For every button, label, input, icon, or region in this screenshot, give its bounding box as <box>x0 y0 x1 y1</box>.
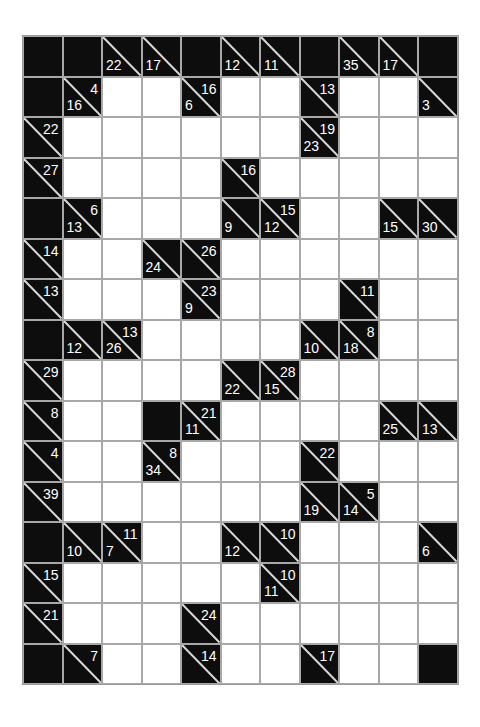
entry-cell[interactable] <box>181 360 221 401</box>
entry-cell[interactable] <box>142 644 182 685</box>
entry-cell[interactable] <box>260 320 300 361</box>
entry-cell[interactable] <box>260 239 300 280</box>
entry-cell[interactable] <box>102 279 142 320</box>
entry-cell[interactable] <box>379 644 419 685</box>
entry-cell[interactable] <box>102 563 142 604</box>
entry-cell[interactable] <box>260 158 300 199</box>
entry-cell[interactable] <box>379 441 419 482</box>
entry-cell[interactable] <box>260 441 300 482</box>
entry-cell[interactable] <box>418 360 458 401</box>
entry-cell[interactable] <box>300 563 340 604</box>
entry-cell[interactable] <box>379 360 419 401</box>
entry-cell[interactable] <box>142 117 182 158</box>
entry-cell[interactable] <box>181 482 221 523</box>
entry-cell[interactable] <box>260 401 300 442</box>
entry-cell[interactable] <box>221 320 261 361</box>
entry-cell[interactable] <box>260 603 300 644</box>
entry-cell[interactable] <box>300 360 340 401</box>
entry-cell[interactable] <box>339 77 379 118</box>
entry-cell[interactable] <box>418 117 458 158</box>
entry-cell[interactable] <box>63 158 103 199</box>
entry-cell[interactable] <box>142 77 182 118</box>
entry-cell[interactable] <box>221 482 261 523</box>
entry-cell[interactable] <box>63 401 103 442</box>
entry-cell[interactable] <box>63 239 103 280</box>
entry-cell[interactable] <box>339 158 379 199</box>
entry-cell[interactable] <box>339 401 379 442</box>
entry-cell[interactable] <box>63 279 103 320</box>
entry-cell[interactable] <box>379 320 419 361</box>
entry-cell[interactable] <box>63 360 103 401</box>
entry-cell[interactable] <box>63 603 103 644</box>
entry-cell[interactable] <box>300 279 340 320</box>
entry-cell[interactable] <box>181 198 221 239</box>
entry-cell[interactable] <box>221 401 261 442</box>
entry-cell[interactable] <box>379 603 419 644</box>
entry-cell[interactable] <box>379 563 419 604</box>
entry-cell[interactable] <box>379 117 419 158</box>
entry-cell[interactable] <box>221 563 261 604</box>
entry-cell[interactable] <box>260 117 300 158</box>
entry-cell[interactable] <box>102 482 142 523</box>
entry-cell[interactable] <box>181 320 221 361</box>
entry-cell[interactable] <box>300 522 340 563</box>
entry-cell[interactable] <box>102 644 142 685</box>
entry-cell[interactable] <box>63 117 103 158</box>
entry-cell[interactable] <box>339 441 379 482</box>
entry-cell[interactable] <box>418 482 458 523</box>
entry-cell[interactable] <box>221 117 261 158</box>
entry-cell[interactable] <box>339 603 379 644</box>
entry-cell[interactable] <box>142 279 182 320</box>
entry-cell[interactable] <box>142 360 182 401</box>
entry-cell[interactable] <box>260 77 300 118</box>
entry-cell[interactable] <box>221 603 261 644</box>
entry-cell[interactable] <box>418 441 458 482</box>
entry-cell[interactable] <box>102 117 142 158</box>
entry-cell[interactable] <box>102 77 142 118</box>
entry-cell[interactable] <box>379 279 419 320</box>
entry-cell[interactable] <box>418 320 458 361</box>
entry-cell[interactable] <box>418 603 458 644</box>
entry-cell[interactable] <box>300 603 340 644</box>
entry-cell[interactable] <box>418 279 458 320</box>
entry-cell[interactable] <box>300 239 340 280</box>
entry-cell[interactable] <box>339 522 379 563</box>
entry-cell[interactable] <box>339 360 379 401</box>
entry-cell[interactable] <box>379 158 419 199</box>
entry-cell[interactable] <box>142 563 182 604</box>
entry-cell[interactable] <box>102 360 142 401</box>
entry-cell[interactable] <box>102 401 142 442</box>
entry-cell[interactable] <box>379 522 419 563</box>
entry-cell[interactable] <box>142 482 182 523</box>
entry-cell[interactable] <box>339 239 379 280</box>
entry-cell[interactable] <box>142 158 182 199</box>
entry-cell[interactable] <box>300 198 340 239</box>
entry-cell[interactable] <box>379 239 419 280</box>
entry-cell[interactable] <box>142 320 182 361</box>
entry-cell[interactable] <box>102 603 142 644</box>
entry-cell[interactable] <box>418 239 458 280</box>
entry-cell[interactable] <box>260 644 300 685</box>
entry-cell[interactable] <box>221 77 261 118</box>
entry-cell[interactable] <box>418 563 458 604</box>
entry-cell[interactable] <box>181 563 221 604</box>
entry-cell[interactable] <box>221 239 261 280</box>
entry-cell[interactable] <box>102 158 142 199</box>
entry-cell[interactable] <box>63 563 103 604</box>
entry-cell[interactable] <box>418 158 458 199</box>
entry-cell[interactable] <box>142 603 182 644</box>
entry-cell[interactable] <box>221 441 261 482</box>
entry-cell[interactable] <box>260 482 300 523</box>
entry-cell[interactable] <box>339 198 379 239</box>
entry-cell[interactable] <box>379 77 419 118</box>
entry-cell[interactable] <box>260 279 300 320</box>
entry-cell[interactable] <box>102 441 142 482</box>
entry-cell[interactable] <box>339 563 379 604</box>
entry-cell[interactable] <box>181 441 221 482</box>
entry-cell[interactable] <box>300 158 340 199</box>
entry-cell[interactable] <box>63 482 103 523</box>
entry-cell[interactable] <box>379 482 419 523</box>
entry-cell[interactable] <box>142 198 182 239</box>
entry-cell[interactable] <box>181 158 221 199</box>
entry-cell[interactable] <box>221 644 261 685</box>
